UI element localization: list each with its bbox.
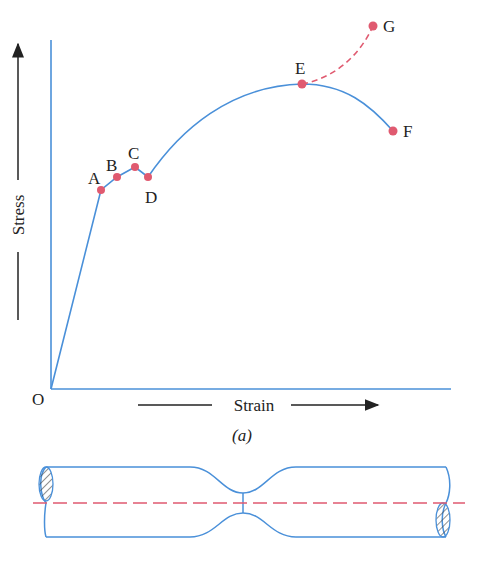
label-b: B xyxy=(106,156,117,175)
point-e xyxy=(298,80,307,89)
true-stress-curve xyxy=(302,26,373,84)
figure-caption: (a) xyxy=(232,426,252,445)
right-section-hatch xyxy=(436,503,450,537)
point-c xyxy=(131,163,139,171)
label-a: A xyxy=(88,169,101,188)
tensile-specimen xyxy=(33,467,465,537)
point-f xyxy=(389,127,398,136)
left-section-hatch xyxy=(39,467,53,501)
point-d xyxy=(144,173,152,181)
label-c: C xyxy=(128,144,139,163)
label-f: F xyxy=(403,122,412,141)
point-g xyxy=(369,22,378,31)
label-g: G xyxy=(383,17,395,36)
stress-strain-diagram: A B C D E F G O Stress Strain (a) xyxy=(0,0,479,569)
label-d: D xyxy=(145,188,157,207)
label-e: E xyxy=(295,59,305,78)
origin-label: O xyxy=(32,390,44,409)
stress-strain-curve xyxy=(51,84,393,389)
y-axis-label: Stress xyxy=(9,195,28,236)
x-axis-label: Strain xyxy=(234,396,275,415)
